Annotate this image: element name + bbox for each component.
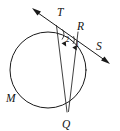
label-point-s: S xyxy=(96,40,102,52)
label-point-t: T xyxy=(57,6,65,18)
label-angle-2: 2 xyxy=(66,35,70,44)
label-point-q: Q xyxy=(62,118,71,130)
label-angle-1: 1 xyxy=(76,40,80,49)
secant-line-trs xyxy=(36,12,106,62)
label-point-m: M xyxy=(5,92,17,104)
label-point-r: R xyxy=(76,20,84,32)
geometry-figure-container: T R S M Q 2 1 xyxy=(0,0,120,131)
geometry-figure-svg: T R S M Q 2 1 xyxy=(0,0,120,131)
arrowhead-lower-right-icon xyxy=(101,57,110,65)
